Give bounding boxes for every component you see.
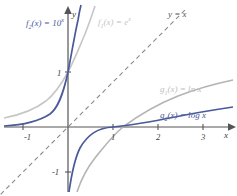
x-axis-arrow — [228, 123, 236, 131]
label-g1-body: (x) = ln x — [168, 84, 202, 94]
x-tick-label-2: 2 — [156, 133, 160, 142]
label-y-equals-x: y = x — [168, 10, 187, 19]
label-g2: g2(x) = log x — [160, 111, 206, 122]
curve-g2-log — [69, 107, 233, 192]
label-g2-body: (x) = log x — [168, 110, 206, 120]
y-axis-arrow — [64, 6, 72, 14]
x-tick-label--1: -1 — [24, 133, 31, 142]
y-tick-label--1: -1 — [52, 168, 59, 177]
x-tick-label-1: 1 — [111, 133, 115, 142]
x-axis-label: x — [224, 131, 228, 140]
curve-g1-ln — [77, 80, 233, 192]
x-tick-label-3: 3 — [201, 133, 205, 142]
y-tick-label-1: 1 — [57, 69, 61, 78]
identity-line-y-equals-x — [0, 10, 185, 196]
function-plot-figure: f2(x) = 10x f1(x) = ex y = x g1(x) = ln … — [0, 0, 237, 196]
label-g1: g1(x) = ln x — [160, 85, 201, 96]
label-f2: f2(x) = 10x — [26, 17, 64, 30]
label-f1: f1(x) = ex — [98, 16, 131, 29]
axes-group — [4, 6, 236, 192]
label-f2-sup: x — [61, 17, 64, 23]
label-f2-body: (x) = 10 — [32, 18, 62, 28]
y-axis-label: y — [72, 10, 76, 19]
label-f1-sup: x — [128, 16, 131, 22]
label-f1-body: (x) = e — [104, 17, 129, 27]
